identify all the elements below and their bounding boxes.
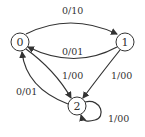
state-label-1: 1 [122,36,129,49]
edge-1-to-0: 0/01 [28,46,117,59]
edge-label-1-to-2: 1/00 [111,70,132,81]
edge-label-1-to-0: 0/01 [62,46,83,57]
state-node-0: 0 [11,33,29,51]
edge-label-0-to-1: 0/10 [62,5,83,16]
edge-label-2-to-2: 1/00 [108,113,129,124]
edge-label-2-to-0: 0/01 [16,86,37,97]
edge-label-0-to-2: 1/00 [62,70,83,81]
edge-2-to-2: 1/00 [81,101,129,124]
edge-0-to-1: 0/10 [26,5,117,34]
edge-2-to-0: 0/01 [16,52,68,104]
state-label-2: 2 [74,100,81,113]
state-node-2: 2 [68,97,86,115]
state-diagram: 0/10 0/01 1/00 1/00 0/01 1/00 0 1 2 [0,0,145,137]
state-node-1: 1 [116,33,134,51]
state-label-0: 0 [17,36,24,49]
